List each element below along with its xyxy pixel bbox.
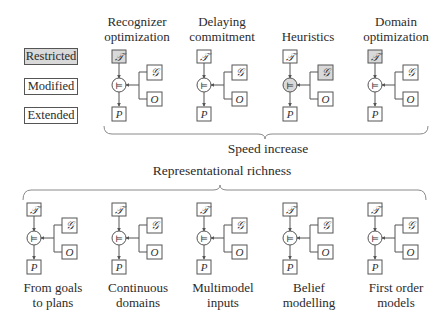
bottom-row-blocks: 𝒯⊨P𝒢O𝒯⊨P𝒢O𝒯⊨P𝒢O𝒯⊨P𝒢O𝒯⊨P𝒢O — [27, 203, 418, 274]
observations-symbol: O — [66, 246, 74, 258]
observations-symbol: O — [151, 246, 159, 258]
planning-block: 𝒯⊨P𝒢O — [112, 203, 162, 274]
observations-symbol: O — [151, 93, 159, 105]
speed-increase-brace — [104, 126, 428, 139]
observations-symbol: O — [407, 246, 415, 258]
planning-block: 𝒯⊨P𝒢O — [368, 203, 418, 274]
top-row-blocks: 𝒯⊨P𝒢O𝒯⊨P𝒢O𝒯⊨P𝒢O𝒯⊨P𝒢O — [112, 50, 418, 121]
plan-symbol: P — [371, 261, 379, 273]
entailment-icon: ⊨ — [371, 81, 379, 91]
entailment-icon: ⊨ — [115, 234, 123, 244]
representational-richness-brace — [23, 185, 426, 200]
planning-block: 𝒯⊨P𝒢O — [197, 50, 247, 121]
entailment-icon: ⊨ — [115, 81, 123, 91]
plan-symbol: P — [115, 108, 123, 120]
plan-symbol: P — [200, 108, 208, 120]
observations-symbol: O — [236, 93, 244, 105]
planning-block: 𝒯⊨P𝒢O — [368, 50, 418, 121]
plan-symbol: P — [286, 108, 294, 120]
observations-symbol: O — [236, 246, 244, 258]
planning-block: 𝒯⊨P𝒢O — [283, 203, 333, 274]
plan-symbol: P — [200, 261, 208, 273]
entailment-icon: ⊨ — [286, 81, 294, 91]
observations-symbol: O — [322, 246, 330, 258]
entailment-icon: ⊨ — [286, 234, 294, 244]
diagram-canvas: 𝒯⊨P𝒢O𝒯⊨P𝒢O𝒯⊨P𝒢O𝒯⊨P𝒢O 𝒯⊨P𝒢O𝒯⊨P𝒢O𝒯⊨P𝒢O𝒯⊨P𝒢… — [0, 0, 447, 324]
planning-block: 𝒯⊨P𝒢O — [283, 50, 333, 121]
plan-symbol: P — [371, 108, 379, 120]
entailment-icon: ⊨ — [200, 81, 208, 91]
planning-block: 𝒯⊨P𝒢O — [27, 203, 77, 274]
entailment-icon: ⊨ — [30, 234, 38, 244]
entailment-icon: ⊨ — [371, 234, 379, 244]
plan-symbol: P — [30, 261, 38, 273]
observations-symbol: O — [407, 93, 415, 105]
plan-symbol: P — [115, 261, 123, 273]
entailment-icon: ⊨ — [200, 234, 208, 244]
planning-block: 𝒯⊨P𝒢O — [112, 50, 162, 121]
plan-symbol: P — [286, 261, 294, 273]
observations-symbol: O — [322, 93, 330, 105]
planning-block: 𝒯⊨P𝒢O — [197, 203, 247, 274]
